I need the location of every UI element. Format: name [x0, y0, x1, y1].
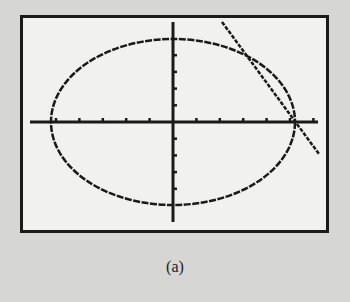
graph-plot — [23, 18, 326, 230]
figure-caption: (a) — [0, 258, 350, 276]
calculator-screen — [20, 15, 329, 233]
secant-line — [222, 22, 319, 154]
